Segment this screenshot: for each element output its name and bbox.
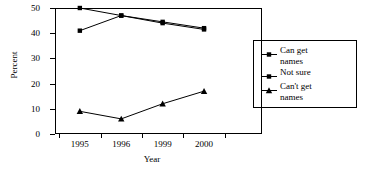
x-axis-title: Year: [122, 154, 182, 164]
x-tick-mark: [101, 134, 102, 138]
x-tick-label: 1995: [60, 139, 100, 149]
legend-label: Can get names: [280, 45, 308, 67]
plot-area: [55, 8, 262, 134]
x-tick-mark: [225, 134, 226, 138]
triangle-marker-icon: [260, 82, 280, 93]
y-tick-label: 50: [14, 4, 40, 13]
y-axis-ticks: 01020304050: [22, 0, 52, 178]
legend-label: Can't get names: [280, 81, 312, 103]
legend-item-1: Can get names: [260, 45, 308, 67]
y-tick-label: 40: [14, 29, 40, 38]
chart-figure: Percent 01020304050 1995199619992000 Yea…: [0, 0, 369, 178]
y-tick-label: 10: [14, 105, 40, 114]
chart-legend: Can get namesNot sureCan't get names: [253, 40, 357, 108]
x-tick-label: 1999: [143, 139, 183, 149]
y-tick-label: 0: [14, 130, 40, 139]
x-tick-mark: [59, 134, 60, 138]
y-tick-label: 20: [14, 80, 40, 89]
y-tick-mark: [50, 134, 55, 135]
x-tick-mark: [183, 134, 184, 138]
square-marker-icon: [260, 68, 280, 79]
x-tick-label: 1996: [101, 139, 141, 149]
y-tick-label: 30: [14, 54, 40, 63]
square-marker-icon: [260, 46, 280, 57]
legend-item-3: Can't get names: [260, 81, 312, 103]
x-tick-label: 2000: [184, 139, 224, 149]
x-tick-mark: [142, 134, 143, 138]
legend-item-2: Not sure: [260, 67, 311, 79]
legend-label: Not sure: [280, 67, 311, 78]
